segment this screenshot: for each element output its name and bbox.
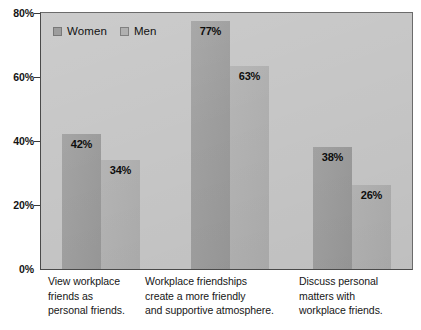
x-axis-label-line: and supportive atmosphere. — [145, 303, 274, 318]
x-axis-label-line: personal friends. — [48, 303, 125, 318]
legend-label-men: Men — [134, 25, 157, 37]
legend-label-women: Women — [67, 25, 107, 37]
bar-women-group-2: 38% — [313, 147, 352, 269]
x-axis-label-group-2: Discuss personal matters with workplace … — [299, 274, 383, 318]
y-axis: 80% 60% 40% 20% 0% — [0, 0, 34, 330]
x-axis: View workplace friends as personal frien… — [40, 274, 413, 330]
bar-value-label: 63% — [230, 70, 269, 82]
bar-women-group-0: 42% — [62, 134, 101, 269]
y-tick-label-40: 40% — [0, 135, 34, 147]
x-axis-label-line: create a more friendly — [145, 289, 274, 304]
bar-value-label: 38% — [313, 151, 352, 163]
x-axis-label-line: View workplace — [48, 274, 125, 289]
legend-item-women: Women — [53, 25, 107, 37]
x-axis-label-line: Discuss personal — [299, 274, 383, 289]
x-axis-label-line: matters with — [299, 289, 383, 304]
legend-swatch-men-icon — [120, 27, 129, 36]
y-tick-label-0: 0% — [0, 263, 34, 275]
x-axis-label-group-0: View workplace friends as personal frien… — [48, 274, 125, 318]
x-axis-label-line: friends as — [48, 289, 125, 304]
bar-men-group-1: 63% — [230, 66, 269, 269]
legend: Women Men — [53, 25, 157, 37]
x-axis-label-line: workplace friends. — [299, 303, 383, 318]
plot-area: Women Men 42% 34% 77% 63% — [40, 12, 413, 270]
bar-value-label: 26% — [352, 189, 391, 201]
bar-men-group-0: 34% — [101, 160, 140, 269]
bar-value-label: 34% — [101, 164, 140, 176]
bar-men-group-2: 26% — [352, 185, 391, 269]
legend-swatch-women-icon — [53, 27, 62, 36]
y-tick-label-80: 80% — [0, 7, 34, 19]
bar-chart: 80% 60% 40% 20% 0% Women Men — [0, 0, 421, 330]
bar-value-label: 42% — [62, 138, 101, 150]
bar-value-label: 77% — [191, 25, 230, 37]
legend-item-men: Men — [120, 25, 157, 37]
x-axis-label-line: Workplace friendships — [145, 274, 274, 289]
y-tick-label-60: 60% — [0, 71, 34, 83]
x-axis-label-group-1: Workplace friendships create a more frie… — [145, 274, 274, 318]
y-tick-label-20: 20% — [0, 199, 34, 211]
bar-women-group-1: 77% — [191, 21, 230, 269]
